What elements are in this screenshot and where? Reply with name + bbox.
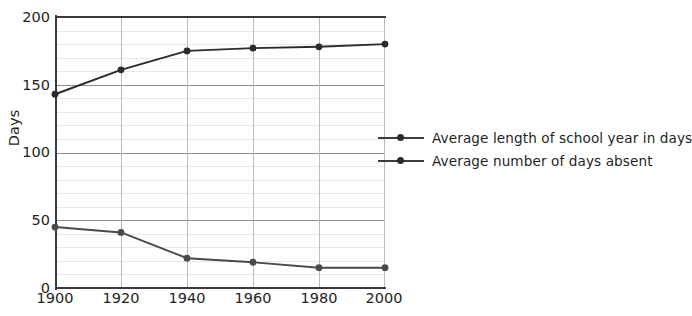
- legend-marker-line-icon: [378, 132, 424, 144]
- y-tick-label-200: 200: [4, 10, 50, 25]
- y-tick-label-100: 100: [4, 145, 50, 160]
- data-point: [250, 259, 257, 266]
- x-tick-label-1960: 1960: [223, 291, 283, 306]
- series-line-days-absent: [55, 227, 385, 268]
- data-point: [52, 91, 59, 98]
- data-point: [316, 264, 323, 271]
- series-line-school-year: [55, 44, 385, 94]
- y-axis-tick-labels: 200 150 100 50 0: [0, 0, 50, 316]
- data-point: [118, 229, 125, 236]
- x-tick-label-1980: 1980: [289, 291, 349, 306]
- x-tick-label-1900: 1900: [25, 291, 85, 306]
- x-tick-label-1940: 1940: [157, 291, 217, 306]
- data-point: [184, 255, 191, 262]
- series-layer: [55, 17, 385, 288]
- legend-item-days-absent: Average number of days absent: [378, 149, 654, 172]
- x-tick-label-1920: 1920: [91, 291, 151, 306]
- data-point: [52, 224, 59, 231]
- y-tick-label-150: 150: [4, 78, 50, 93]
- data-point: [250, 45, 257, 52]
- legend-label-days-absent: Average number of days absent: [432, 153, 653, 169]
- chart-legend: Average length of school year in days Av…: [378, 126, 654, 172]
- data-point: [382, 41, 389, 48]
- x-axis-tick-labels: 1900 1920 1940 1960 1980 2000: [0, 291, 654, 315]
- y-tick-label-50: 50: [4, 213, 50, 228]
- legend-item-school-year: Average length of school year in days: [378, 126, 654, 149]
- x-tick-label-2000: 2000: [354, 291, 414, 306]
- legend-label-school-year: Average length of school year in days: [432, 130, 692, 146]
- data-point: [382, 264, 389, 271]
- legend-marker-line-icon: [378, 155, 424, 167]
- data-point: [184, 47, 191, 54]
- data-point: [316, 43, 323, 50]
- data-point: [118, 66, 125, 73]
